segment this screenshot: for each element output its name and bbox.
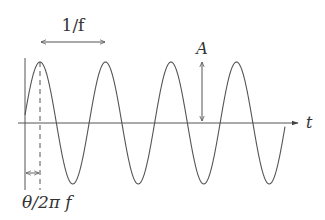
period-label: 1/f [62,15,87,35]
time-axis-label: t [306,113,313,132]
phase-label: θ/2π f [22,192,74,212]
amplitude-label: A [194,39,208,58]
sine-wave-diagram: 1/f A t θ/2π f [0,0,325,220]
